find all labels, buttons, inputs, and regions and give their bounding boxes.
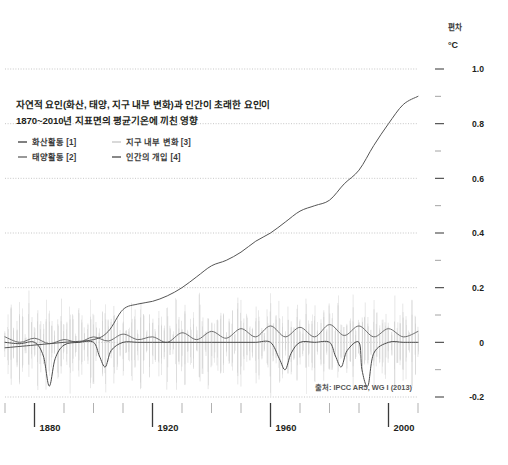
- ytick-label: 1.0: [472, 64, 484, 74]
- y-axis-unit: °C: [448, 40, 459, 50]
- legend-item-3[interactable]: 지구 내부 변화 [3]: [112, 137, 191, 147]
- ytick-label: 0.4: [472, 228, 484, 238]
- xtick-label: 1960: [276, 422, 297, 433]
- legend-item-2[interactable]: 태양활동 [2]: [18, 152, 77, 162]
- series-human-influence: [5, 96, 418, 347]
- xtick-label: 2000: [394, 422, 415, 433]
- ytick-label: 0.6: [472, 174, 484, 184]
- xtick-label: 1880: [40, 422, 61, 433]
- legend-label: 화산활동 [1]: [32, 137, 77, 147]
- legend-item-4[interactable]: 인간의 개입 [4]: [112, 152, 181, 162]
- chart-title-line2: 1870~2010년 지표면의 평균기온에 끼친 영향: [16, 115, 198, 126]
- ytick-label: 0.2: [472, 283, 484, 293]
- chart-canvas: 1.00.80.60.40.20-0.2편차°C1880192019602000…: [0, 0, 508, 465]
- chart-title-line1: 자연적 요인(화산, 태양, 지구 내부 변화)과 인간이 초래한 요인이: [16, 99, 270, 110]
- legend-item-1[interactable]: 화산활동 [1]: [18, 137, 77, 147]
- legend-label: 지구 내부 변화 [3]: [126, 137, 191, 147]
- legend-label: 인간의 개입 [4]: [126, 152, 181, 162]
- ytick-label: -0.2: [469, 392, 484, 402]
- y-axis-label: 편차: [448, 22, 462, 32]
- legend-label: 태양활동 [2]: [32, 152, 77, 162]
- ytick-label: 0.8: [472, 119, 484, 129]
- climate-attribution-chart: 1.00.80.60.40.20-0.2편차°C1880192019602000…: [0, 0, 508, 465]
- source-note: 출처: IPCC AR5, WG I (2013): [315, 383, 413, 392]
- xtick-label: 1920: [158, 422, 179, 433]
- ytick-label: 0: [479, 338, 484, 348]
